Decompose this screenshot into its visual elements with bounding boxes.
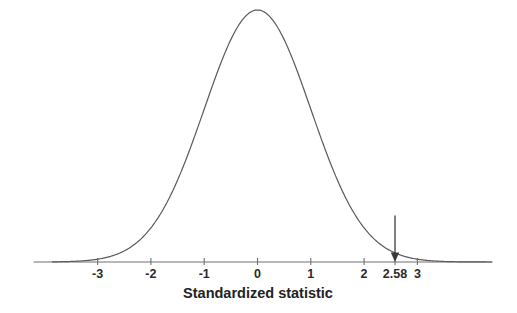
x-axis-tick-label: 2.58 (383, 267, 407, 281)
x-axis-title: Standardized statistic (183, 285, 333, 301)
x-axis-tick-label: 3 (414, 267, 421, 281)
arrow-head (391, 253, 399, 263)
normal-distribution-figure: -3-2-10122.583 Standardized statistic (0, 0, 517, 313)
x-axis-tick-labels: -3-2-10122.583 (92, 267, 421, 281)
x-axis-tick-label: 0 (254, 267, 261, 281)
x-axis-tick-label: -2 (145, 267, 156, 281)
x-axis-tick-label: 1 (307, 267, 314, 281)
x-axis-tick-label: -3 (92, 267, 103, 281)
x-axis-tick-label: 2 (361, 267, 368, 281)
plot-area: -3-2-10122.583 Standardized statistic (0, 0, 517, 313)
test-statistic-arrow (391, 215, 399, 262)
normal-density-curve (52, 10, 492, 262)
x-axis-tick-label: -1 (199, 267, 210, 281)
